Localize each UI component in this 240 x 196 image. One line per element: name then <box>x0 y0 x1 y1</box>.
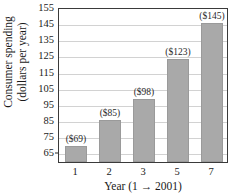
y-axis-tick-mark <box>55 153 58 154</box>
bar <box>99 120 121 162</box>
bar <box>201 23 223 162</box>
bar-value-label: ($123) <box>165 47 190 57</box>
x-axis-title: Year (1 → 2001) <box>58 180 228 193</box>
y-axis-tick-label: 85 <box>30 116 54 126</box>
y-axis-tick-label: 65 <box>30 148 54 158</box>
bar-group: ($123) <box>167 59 189 162</box>
x-axis-tick-label: 5 <box>174 166 179 178</box>
y-axis-tick-label: 95 <box>30 100 54 110</box>
bar-chart: Consumer spending (dollars per year) 657… <box>0 0 240 196</box>
y-axis-tick-label: 145 <box>30 19 54 29</box>
x-axis-tick-labels: 12357 <box>58 166 228 180</box>
y-axis-title: Consumer spending (dollars per year) <box>0 0 30 127</box>
bar-group: ($98) <box>133 99 155 162</box>
bar-group: ($69) <box>65 146 87 162</box>
bar <box>167 59 189 162</box>
bar-group: ($85) <box>99 120 121 162</box>
bar-value-label: ($69) <box>66 134 87 144</box>
bars-layer: ($69)($85)($98)($123)($145) <box>59 9 227 162</box>
bar <box>65 146 87 162</box>
y-axis-tick-labels: 65758595105115125135145155 <box>30 8 54 146</box>
bar-group: ($145) <box>201 23 223 162</box>
y-axis-tick-label: 135 <box>30 35 54 45</box>
x-axis-tick-label: 2 <box>106 166 111 178</box>
y-axis-tick-label: 155 <box>30 3 54 13</box>
y-axis-title-line-2: (dollars per year) <box>15 22 29 101</box>
x-axis-tick-label: 3 <box>140 166 145 178</box>
y-axis-tick-label: 125 <box>30 51 54 61</box>
bar-value-label: ($98) <box>134 87 155 97</box>
x-axis-tick-label: 7 <box>208 166 213 178</box>
y-axis-tick-label: 115 <box>30 68 54 78</box>
plot-area: ($69)($85)($98)($123)($145) <box>58 8 228 163</box>
bar <box>133 99 155 162</box>
bar-value-label: ($145) <box>199 11 224 21</box>
y-axis-tick-label: 75 <box>30 132 54 142</box>
y-axis-tick-label: 105 <box>30 84 54 94</box>
x-axis-tick-label: 1 <box>72 166 77 178</box>
y-axis-title-line-1: Consumer spending <box>1 16 15 108</box>
bar-value-label: ($85) <box>100 108 121 118</box>
